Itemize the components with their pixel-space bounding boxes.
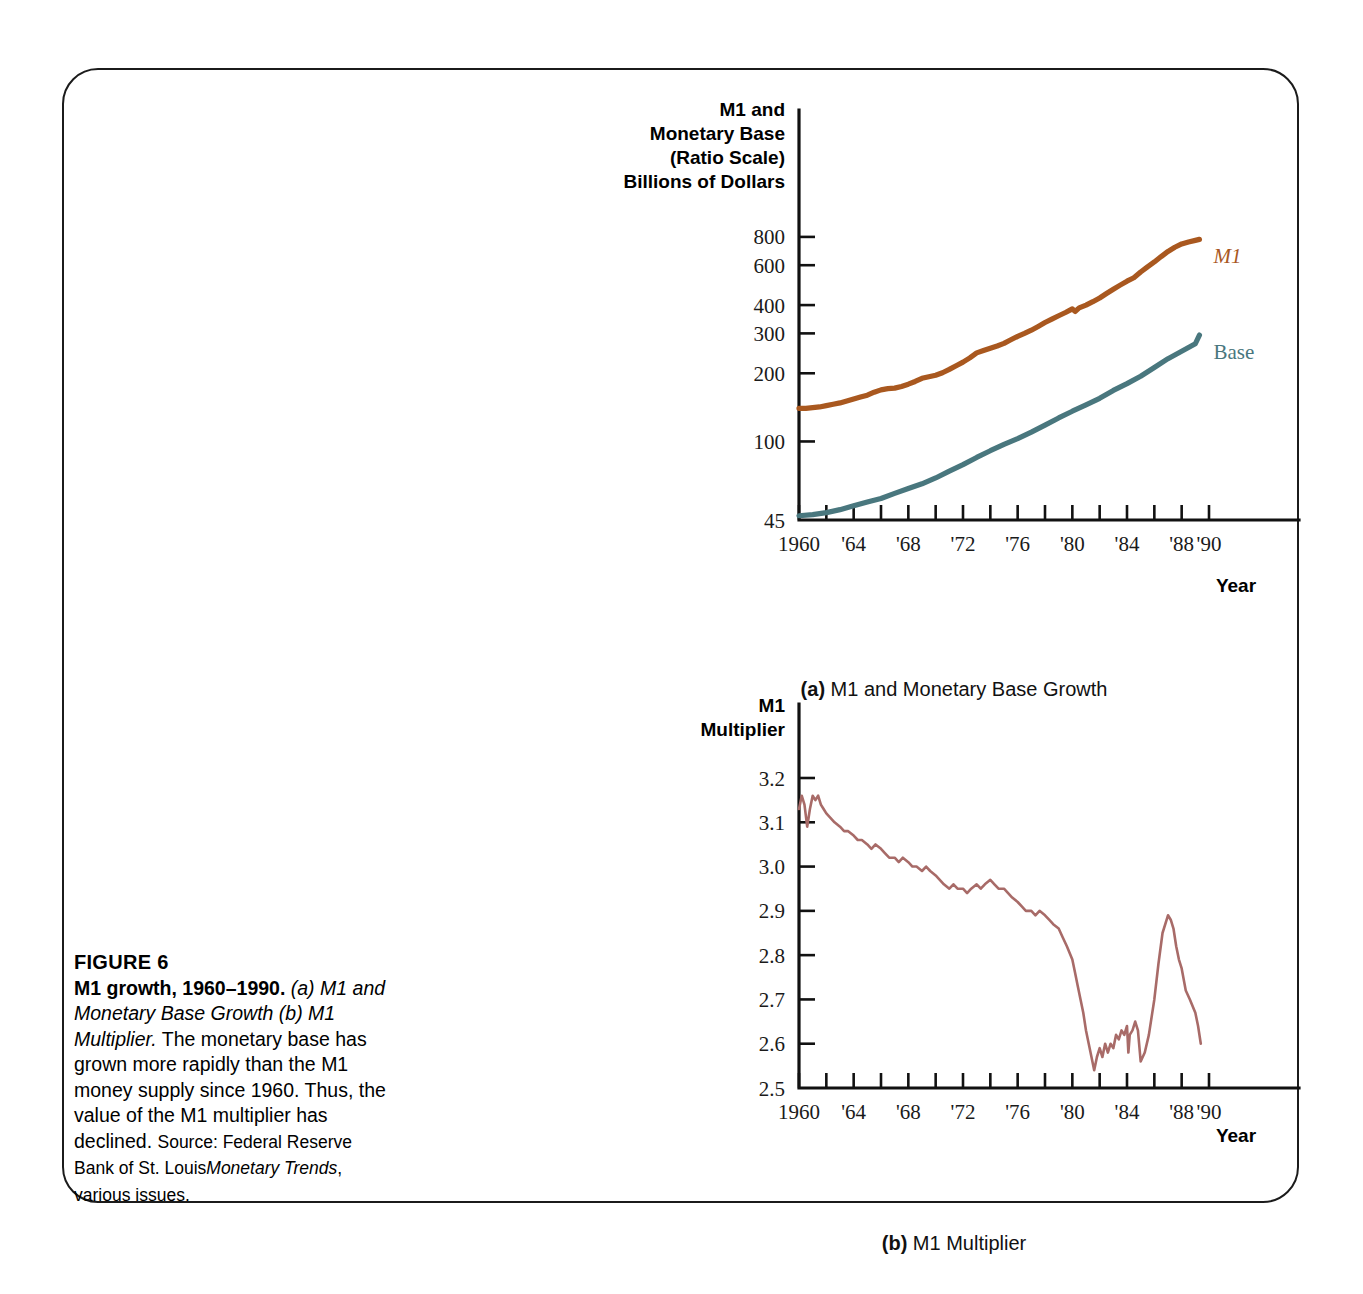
- figure-source-publication: Monetary Trends: [206, 1158, 337, 1178]
- figure-caption-body: M1 growth, 1960–1990. (a) M1 and Monetar…: [74, 976, 394, 1209]
- figure-label: FIGURE 6: [74, 950, 394, 976]
- chart-b-svg: M1Multiplier 2.52.62.72.82.93.03.13.2 19…: [624, 690, 1284, 1190]
- chart-b-x-ticks: [799, 1073, 1209, 1088]
- x-tick-label: '72: [951, 1100, 976, 1124]
- subcaption-b-marker: (b): [882, 1232, 908, 1254]
- series-line-base: [799, 335, 1199, 516]
- y-axis-title-line: (Ratio Scale): [670, 147, 785, 168]
- y-axis-title-line: Billions of Dollars: [623, 171, 785, 192]
- x-tick-label: '84: [1115, 1100, 1140, 1124]
- x-tick-label: '76: [1005, 1100, 1030, 1124]
- chart-b-series-lines: [799, 796, 1201, 1071]
- series-line-m1-multiplier: [799, 796, 1201, 1071]
- y-tick-label: 600: [754, 254, 786, 278]
- chart-b-y-tick-labels: 2.52.62.72.82.93.03.13.2: [759, 767, 785, 1101]
- y-axis-title-line: Monetary Base: [650, 123, 785, 144]
- y-axis-title-line: Multiplier: [701, 719, 786, 740]
- y-tick-label: 3.0: [759, 855, 785, 879]
- x-tick-label: '76: [1005, 532, 1030, 556]
- x-tick-label: '88: [1169, 532, 1194, 556]
- series-label-m1: M1: [1212, 244, 1241, 268]
- chart-a-x-tick-labels: 1960'64'68'72'76'80'84'88'90: [778, 532, 1221, 556]
- chart-panel-b: M1Multiplier 2.52.62.72.82.93.03.13.2 19…: [624, 690, 1284, 1190]
- chart-a-series-labels: M1Base: [1212, 244, 1254, 364]
- y-tick-label: 200: [754, 362, 786, 386]
- figure-border: M1 andMonetary Base(Ratio Scale)Billions…: [62, 68, 1299, 1203]
- y-tick-label: 300: [754, 322, 786, 346]
- figure-caption: FIGURE 6 M1 growth, 1960–1990. (a) M1 an…: [74, 950, 394, 1208]
- y-tick-label: 100: [754, 430, 786, 454]
- x-tick-label: '68: [896, 532, 921, 556]
- subcaption-b-text: M1 Multiplier: [907, 1232, 1026, 1254]
- x-tick-label: 1960: [778, 1100, 820, 1124]
- x-tick-label: '72: [951, 532, 976, 556]
- x-tick-label: '84: [1115, 532, 1140, 556]
- y-tick-label: 2.7: [759, 988, 785, 1012]
- x-tick-label: '80: [1060, 532, 1085, 556]
- x-tick-label: '80: [1060, 1100, 1085, 1124]
- chart-b-x-tick-labels: 1960'64'68'72'76'80'84'88'90: [778, 1100, 1221, 1124]
- x-tick-label: '68: [896, 1100, 921, 1124]
- subcaption-b: (b) M1 Multiplier: [624, 1232, 1284, 1255]
- x-tick-label: '64: [841, 532, 866, 556]
- y-axis-title-line: M1 and: [720, 99, 785, 120]
- x-tick-label: '88: [1169, 1100, 1194, 1124]
- x-tick-label: '90: [1197, 532, 1222, 556]
- chart-b-y-axis-title: M1Multiplier: [701, 695, 786, 740]
- y-tick-label: 3.2: [759, 767, 785, 791]
- y-tick-label: 3.1: [759, 811, 785, 835]
- x-tick-label: '64: [841, 1100, 866, 1124]
- chart-a-svg: M1 andMonetary Base(Ratio Scale)Billions…: [624, 92, 1284, 652]
- y-tick-label: 400: [754, 294, 786, 318]
- y-tick-label: 800: [754, 225, 786, 249]
- chart-a-series-lines: [799, 239, 1199, 515]
- chart-a-y-axis-title: M1 andMonetary Base(Ratio Scale)Billions…: [623, 99, 785, 192]
- y-tick-label: 2.5: [759, 1077, 785, 1101]
- chart-a-x-ticks: [799, 505, 1209, 520]
- x-tick-label: '90: [1197, 1100, 1222, 1124]
- y-tick-label: 2.9: [759, 899, 785, 923]
- x-tick-label: 1960: [778, 532, 820, 556]
- chart-b-axis-lines: [799, 704, 1299, 1088]
- y-axis-title-line: M1: [759, 695, 786, 716]
- series-label-base: Base: [1213, 340, 1254, 364]
- figure-title: M1 growth, 1960–1990.: [74, 977, 285, 999]
- chart-a-y-tick-labels: 45100200300400600800: [754, 225, 786, 532]
- y-tick-label: 2.6: [759, 1032, 785, 1056]
- axis-frame: [799, 110, 1299, 520]
- axis-frame: [799, 704, 1299, 1088]
- chart-panel-a: M1 andMonetary Base(Ratio Scale)Billions…: [624, 92, 1284, 652]
- series-line-m1: [799, 239, 1199, 408]
- chart-a-axis-lines: [799, 110, 1299, 520]
- chart-a-x-axis-title: Year: [1216, 575, 1257, 596]
- y-tick-label: 2.8: [759, 944, 785, 968]
- y-tick-label: 45: [764, 509, 785, 533]
- chart-b-x-axis-title: Year: [1216, 1125, 1257, 1146]
